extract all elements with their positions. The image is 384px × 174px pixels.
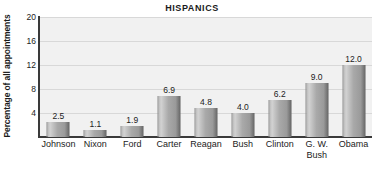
bar-value-label: 12.0 — [345, 54, 362, 64]
x-axis-category-labels: JohnsonNixonFordCarterReaganBushClintonG… — [40, 139, 372, 173]
bar — [268, 100, 291, 137]
bar-value-label: 9.0 — [311, 72, 323, 82]
bar-value-label: 2.5 — [53, 111, 65, 121]
y-tick-label: 8 — [14, 84, 36, 94]
y-tick-label: 16 — [14, 36, 36, 46]
bar-slot: 4.0 — [224, 17, 261, 137]
bar-slot: 9.0 — [298, 17, 335, 137]
chart-title: HISPANICS — [0, 3, 384, 13]
bar-value-label: 1.1 — [89, 119, 101, 129]
bar — [47, 122, 70, 137]
bar — [158, 96, 181, 137]
bar-slot: 6.9 — [151, 17, 188, 137]
bar-value-label: 6.9 — [163, 85, 175, 95]
bar-value-label: 4.8 — [200, 97, 212, 107]
bar — [231, 113, 254, 137]
bar-value-label: 4.0 — [237, 102, 249, 112]
bar-slot: 12.0 — [335, 17, 372, 137]
bar-slot: 1.1 — [77, 17, 114, 137]
y-tick-label: 4 — [14, 108, 36, 118]
hispanics-bar-chart: HISPANICS Percentage of all appointments… — [0, 0, 384, 174]
bar — [305, 83, 328, 137]
bar — [84, 130, 107, 137]
bar-value-label: 6.2 — [274, 89, 286, 99]
bars-layer: 2.51.11.96.94.84.06.29.012.0 — [40, 17, 372, 137]
bar-slot: 2.5 — [40, 17, 77, 137]
bar — [121, 126, 144, 137]
y-axis-tick-labels: 20161284 — [12, 17, 36, 137]
y-axis-title-label: Percentage of all appointments — [2, 14, 12, 137]
y-tick-label: 20 — [14, 12, 36, 22]
y-tick-label: 12 — [14, 60, 36, 70]
bar — [194, 108, 217, 137]
bar-slot: 1.9 — [114, 17, 151, 137]
bar — [342, 65, 365, 137]
bar-value-label: 1.9 — [126, 115, 138, 125]
bar-slot: 6.2 — [261, 17, 298, 137]
x-category-label: Obama — [329, 139, 378, 150]
bar-slot: 4.8 — [188, 17, 225, 137]
